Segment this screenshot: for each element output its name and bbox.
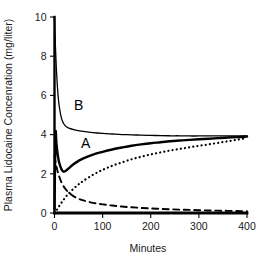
- x-tick-label: 400: [238, 220, 256, 232]
- series-labels-layer: BA: [74, 97, 91, 151]
- series-label-B: B: [74, 97, 83, 113]
- y-tick-label: 8: [41, 50, 47, 62]
- x-tick-label: 100: [94, 220, 112, 232]
- y-tick-label: 6: [41, 89, 47, 101]
- axes-layer: [55, 17, 248, 213]
- y-tick-label: 0: [41, 207, 47, 219]
- x-tick-label: 0: [52, 220, 58, 232]
- x-axis-title: Minutes: [130, 242, 167, 254]
- y-tick-label: 4: [41, 128, 47, 140]
- x-tick-label: 300: [190, 220, 208, 232]
- x-tick-label: 200: [142, 220, 160, 232]
- curve-B: [55, 17, 248, 136]
- y-axis-title: Plasma Lidocaine Concenration (mg/liter): [2, 19, 14, 212]
- y-tick-label: 2: [41, 168, 47, 180]
- curve-bolus-decay: [55, 156, 248, 211]
- y-tick-label: 10: [35, 11, 47, 23]
- series-label-A: A: [81, 135, 91, 151]
- ticks-layer: 02468100100200300400: [35, 11, 256, 232]
- plot-canvas: 02468100100200300400 BA Minutes Plasma L…: [0, 0, 257, 266]
- chart-figure: 02468100100200300400 BA Minutes Plasma L…: [0, 0, 257, 266]
- curves-layer: [55, 17, 248, 213]
